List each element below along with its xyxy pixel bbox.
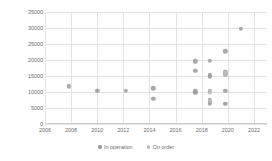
legend-item[interactable]: On order: [147, 144, 174, 151]
legend-label: On order: [153, 144, 174, 151]
y-axis-tick-labels: 05000100001500020000250003000035000: [17, 12, 43, 124]
x-axis-tick-labels: 200620082010201220142016201820202022: [45, 126, 267, 136]
data-point: [223, 49, 227, 53]
data-point: [193, 59, 197, 63]
legend-label: In operation: [104, 144, 132, 151]
data-point: [193, 90, 197, 94]
y-axis-tick-label: 25000: [17, 41, 43, 47]
data-point: [223, 101, 227, 105]
legend-item[interactable]: In operation: [98, 144, 133, 151]
data-point: [124, 89, 128, 93]
data-point: [223, 89, 227, 93]
x-axis-tick-label: 2022: [239, 126, 269, 134]
scatter-chart: Gross tonnage 05000100001500020000250003…: [0, 0, 272, 161]
y-axis-tick-label: 30000: [17, 25, 43, 31]
plot-area: [45, 12, 267, 124]
data-point: [95, 89, 99, 93]
data-points-layer: [45, 12, 267, 124]
data-point: [239, 27, 243, 31]
data-point: [207, 59, 211, 63]
data-point: [207, 75, 211, 79]
y-axis-tick-label: 35000: [17, 9, 43, 15]
y-axis-tick-label: 5000: [17, 105, 43, 111]
gridline-horizontal: [45, 124, 267, 125]
y-axis-tick-label: 15000: [17, 73, 43, 79]
data-point: [207, 90, 211, 94]
data-point: [151, 97, 155, 101]
chart-legend: In operationOn order: [0, 141, 272, 153]
data-point: [151, 86, 155, 90]
legend-marker-icon: [98, 145, 102, 149]
data-point: [193, 68, 197, 72]
y-axis-tick-label: 20000: [17, 57, 43, 63]
data-point: [66, 84, 70, 88]
y-axis-tick-label: 10000: [17, 89, 43, 95]
legend-marker-icon: [147, 145, 151, 149]
